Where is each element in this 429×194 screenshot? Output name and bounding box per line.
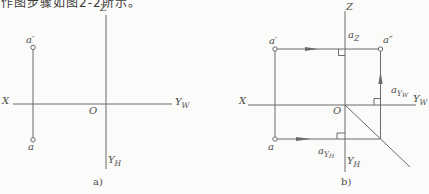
point-ayw-label-b: aYW bbox=[391, 85, 408, 95]
point-a-profile-label-b: a″ bbox=[383, 35, 393, 45]
right-angle-mark-ayw bbox=[374, 99, 381, 106]
point-a-front-label-a: a′ bbox=[26, 35, 34, 45]
point-ayh-label-b: aYH bbox=[318, 146, 334, 156]
figure-canvas: 作图步骤如图2-2所示。 Z bbox=[0, 0, 429, 194]
projection-diagram-linework bbox=[0, 0, 429, 194]
z-axis-label-b: Z bbox=[346, 2, 353, 12]
yw-axis-label-a: YW bbox=[175, 97, 189, 107]
arrow-right-bottom bbox=[296, 137, 311, 141]
point-a-top-label-a: a bbox=[28, 142, 34, 152]
point-a-front-marker-a bbox=[31, 45, 35, 49]
x-axis-label-a: X bbox=[2, 96, 9, 106]
z-axis-label-a: Z bbox=[100, 3, 107, 13]
yh-axis-label-b: YH bbox=[347, 156, 360, 166]
subfigure-caption-a: a) bbox=[93, 177, 103, 187]
right-angle-mark-az bbox=[339, 49, 346, 56]
point-a-top-label-b: a bbox=[268, 142, 274, 152]
origin-label-b: O bbox=[333, 106, 341, 116]
diagram-a-lines bbox=[13, 15, 172, 169]
yw-axis-label-b: YW bbox=[413, 94, 427, 104]
arrow-right-top bbox=[305, 47, 318, 51]
arrow-up-right bbox=[378, 71, 382, 84]
x-axis-label-b: X bbox=[239, 96, 246, 106]
point-a-profile-marker-b bbox=[378, 47, 382, 51]
point-a-front-label-b: a′ bbox=[269, 36, 277, 46]
right-angle-mark-ayh bbox=[337, 133, 345, 139]
subfigure-caption-b: b) bbox=[341, 177, 351, 187]
yh-axis-label-a: YH bbox=[108, 155, 121, 165]
origin-label-a: O bbox=[89, 106, 97, 116]
point-az-label-b: aZ bbox=[348, 30, 359, 40]
point-a-front-marker-b bbox=[273, 47, 277, 51]
